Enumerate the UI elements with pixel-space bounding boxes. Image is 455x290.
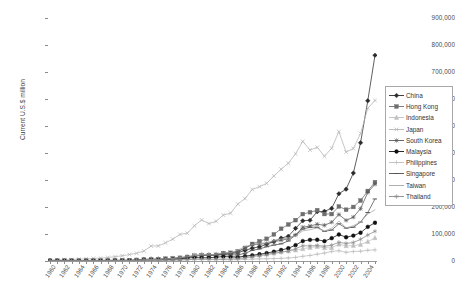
x-tick-mark xyxy=(158,261,159,264)
y-tick-label: 0 xyxy=(411,258,455,264)
x-tick-mark xyxy=(115,261,116,264)
y-axis-title: Current U.S.$ million xyxy=(19,62,26,158)
diamond-marker-icon xyxy=(388,90,405,101)
series-japan xyxy=(48,98,377,261)
x-tick-mark xyxy=(173,261,174,264)
star-marker-icon xyxy=(388,191,405,202)
series-thailand xyxy=(48,229,377,261)
legend-item-thailand[interactable]: Thailand xyxy=(388,191,450,202)
legend-item-singapore[interactable]: Singapore xyxy=(388,168,450,179)
legend-label: South Korea xyxy=(405,137,442,144)
y-tick-label: 100,000 xyxy=(411,231,455,237)
asterisk-marker-icon xyxy=(388,135,405,146)
x-tick-mark xyxy=(57,261,58,264)
x-tick-mark xyxy=(86,261,87,264)
legend-label: Hong Kong xyxy=(405,103,438,110)
x-tick-mark xyxy=(231,261,232,264)
legend-item-philippines[interactable]: Philippines xyxy=(388,157,450,168)
x-tick-mark xyxy=(187,261,188,264)
x-tick-mark xyxy=(245,261,246,264)
square-marker-icon xyxy=(388,101,405,112)
legend-item-hong-kong[interactable]: Hong Kong xyxy=(388,101,450,112)
x-tick-mark xyxy=(144,261,145,264)
line-marker-icon xyxy=(388,180,405,191)
chart-container: Current U.S.$ million 0100,000200,000300… xyxy=(0,0,455,290)
legend-item-indonesia[interactable]: Indonesia xyxy=(388,112,450,123)
x-tick-mark xyxy=(202,261,203,264)
legend-item-china[interactable]: China xyxy=(388,90,450,101)
x-tick-mark xyxy=(303,261,304,264)
y-tick-label: 700,000 xyxy=(411,69,455,75)
x-tick-mark xyxy=(332,261,333,264)
x-tick-mark xyxy=(101,261,102,264)
legend-item-japan[interactable]: Japan xyxy=(388,124,450,135)
x-tick-mark xyxy=(72,261,73,264)
circle-marker-icon xyxy=(388,146,405,157)
x-tick-mark xyxy=(361,261,362,264)
series-south-korea xyxy=(48,182,377,261)
legend-label: China xyxy=(405,92,423,99)
legend-label: Malaysia xyxy=(405,148,431,155)
triangle-marker-icon xyxy=(388,112,405,123)
x-tick-mark xyxy=(259,261,260,264)
legend-item-taiwan[interactable]: Taiwan xyxy=(388,180,450,191)
y-tick-label: 900,000 xyxy=(411,15,455,21)
x-tick-mark xyxy=(274,261,275,264)
legend-label: Taiwan xyxy=(405,182,426,189)
x-tick-mark xyxy=(129,261,130,264)
legend-label: Thailand xyxy=(405,193,431,200)
x-tick-mark xyxy=(346,261,347,264)
legend-item-south-korea[interactable]: South Korea xyxy=(388,135,450,146)
x-tick-mark xyxy=(317,261,318,264)
dash-marker-icon xyxy=(388,168,405,179)
legend[interactable]: ChinaHong KongIndonesiaJapanSouth KoreaM… xyxy=(385,86,453,206)
x-tick-mark xyxy=(375,261,376,264)
legend-label: Japan xyxy=(405,126,423,133)
plus-marker-icon xyxy=(388,157,405,168)
series-hong-kong xyxy=(48,180,377,261)
x-marker-icon xyxy=(388,124,405,135)
legend-label: Indonesia xyxy=(405,114,434,121)
plot-area xyxy=(48,18,377,261)
x-tick-mark xyxy=(216,261,217,264)
legend-item-malaysia[interactable]: Malaysia xyxy=(388,146,450,157)
y-tick-label: 800,000 xyxy=(411,42,455,48)
x-tick-mark xyxy=(288,261,289,264)
legend-label: Singapore xyxy=(405,170,435,177)
legend-label: Philippines xyxy=(405,159,437,166)
series-layer xyxy=(48,18,377,261)
x-axis-line xyxy=(48,261,377,262)
